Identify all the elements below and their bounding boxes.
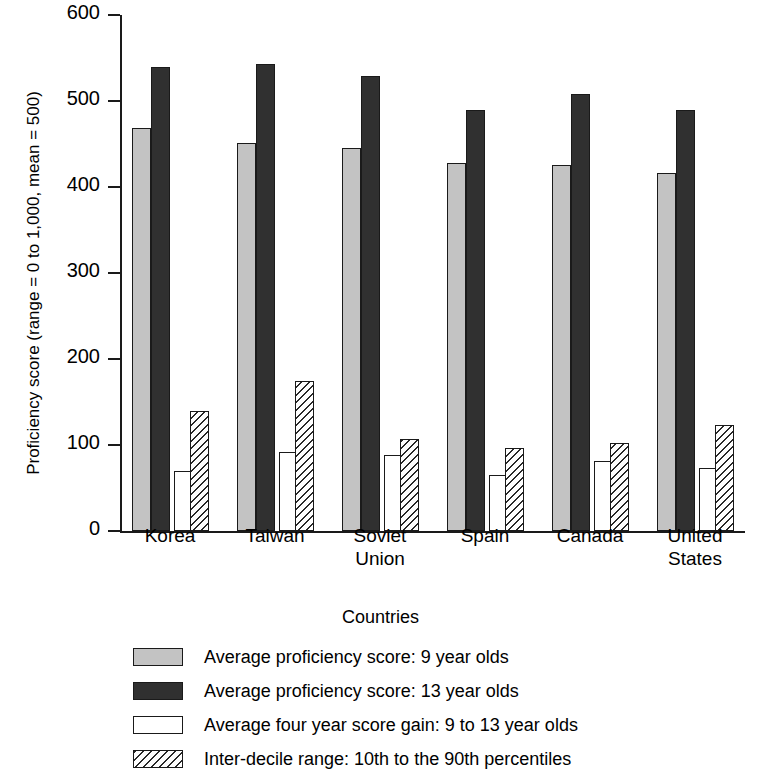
bar-s13 [571,94,590,531]
bar-decile [610,443,629,531]
legend-swatch-decile [133,750,183,768]
legend-label: Inter-decile range: 10th to the 90th per… [204,749,571,770]
bar-s9 [552,165,571,531]
y-tick: 500 [108,100,120,102]
plot-area: 0100200300400500600 [120,15,745,531]
bar-group [552,15,632,531]
bar-s13 [256,64,275,531]
bar-s13 [466,110,485,531]
y-tick-label: 600 [40,1,100,24]
legend-label: Average proficiency score: 9 year olds [204,647,509,668]
bar-group [657,15,737,531]
legend-item[interactable]: Average proficiency score: 9 year olds [133,640,761,674]
bar-s9 [342,148,361,531]
chart-legend: Average proficiency score: 9 year oldsAv… [133,640,761,776]
x-category-label-line: Union [310,547,450,570]
y-tick: 100 [108,444,120,446]
bar-group [237,15,317,531]
bar-decile [715,425,734,531]
bar-s13 [361,76,380,531]
y-tick: 400 [108,186,120,188]
legend-label: Average four year score gain: 9 to 13 ye… [204,715,578,736]
bar-decile [295,381,314,532]
y-tick: 600 [108,14,120,16]
bar-chart-figure: Proficiency score (range = 0 to 1,000, m… [0,0,761,778]
x-category-label: UnitedStates [625,524,761,570]
x-axis-title: Countries [0,607,761,628]
bar-s13 [676,110,695,531]
legend-swatch-s9 [133,648,183,666]
bar-group [342,15,422,531]
bar-decile [190,411,209,531]
bar-group [132,15,212,531]
y-tick-label: 100 [40,431,100,454]
bar-decile [505,448,524,531]
legend-label: Average proficiency score: 13 year olds [204,681,519,702]
x-category-label-line: States [625,547,761,570]
bar-group [447,15,527,531]
y-tick-label: 400 [40,173,100,196]
y-axis-line [120,15,122,532]
y-tick-label: 300 [40,259,100,282]
y-tick: 200 [108,358,120,360]
bar-s13 [151,67,170,531]
bar-s9 [237,143,256,531]
y-tick-label: 0 [40,517,100,540]
legend-swatch-s13 [133,682,183,700]
y-tick-label: 200 [40,345,100,368]
y-tick: 300 [108,272,120,274]
legend-item[interactable]: Average four year score gain: 9 to 13 ye… [133,708,761,742]
x-category-label-line: United [625,524,761,547]
legend-item[interactable]: Inter-decile range: 10th to the 90th per… [133,742,761,776]
y-tick-label: 500 [40,87,100,110]
legend-swatch-gain [133,716,183,734]
legend-item[interactable]: Average proficiency score: 13 year olds [133,674,761,708]
bar-s9 [132,128,151,531]
bar-decile [400,439,419,531]
bar-s9 [657,173,676,531]
bar-s9 [447,163,466,531]
